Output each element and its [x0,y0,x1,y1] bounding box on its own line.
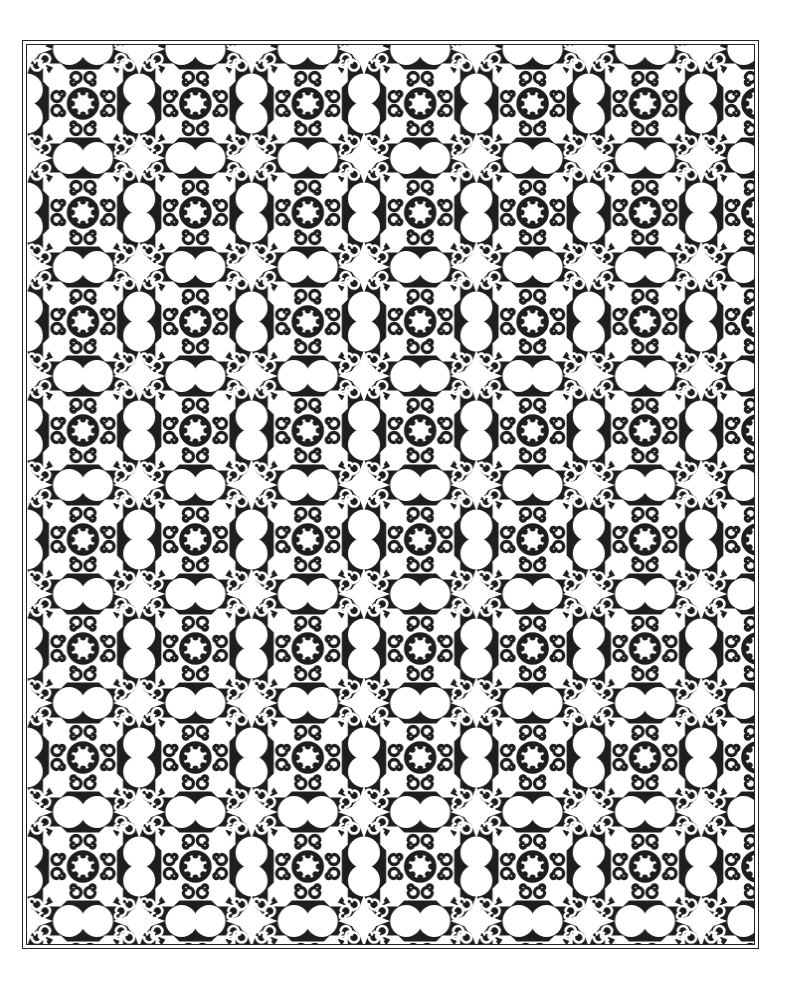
tiled-pattern-fill [27,45,755,945]
ornamental-pattern [27,45,755,945]
pattern-canvas [26,44,755,945]
